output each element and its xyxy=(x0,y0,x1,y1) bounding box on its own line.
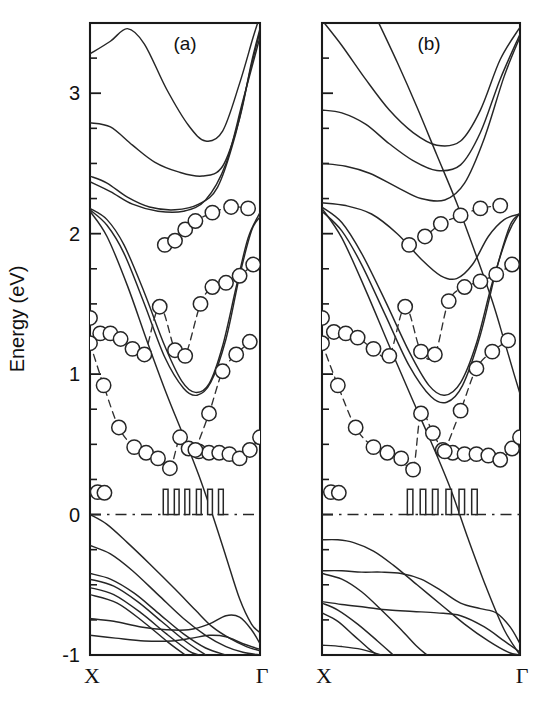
x-tick-label-X: X xyxy=(316,663,332,688)
y-tick-label: 2 xyxy=(69,223,80,245)
experimental-data-marker xyxy=(493,453,507,467)
experimental-data-marker xyxy=(112,420,126,434)
experimental-data-marker xyxy=(414,344,428,358)
experimental-data-marker xyxy=(224,200,238,214)
experimental-data-marker xyxy=(232,269,246,283)
experimental-data-marker xyxy=(97,486,111,500)
x-tick-label-gamma: Γ xyxy=(256,663,269,688)
panel-label-b: (b) xyxy=(417,33,440,54)
surface-state-marker xyxy=(446,489,452,514)
surface-state-marker xyxy=(459,489,465,514)
band-curve xyxy=(322,602,520,653)
surface-state-marker xyxy=(407,489,413,514)
experimental-data-marker xyxy=(188,443,202,457)
x-tick-label-X: X xyxy=(84,663,100,688)
experimental-data-marker xyxy=(380,446,394,460)
experimental-data-marker xyxy=(489,267,503,281)
panel-b-content xyxy=(315,20,527,655)
experimental-data-marker xyxy=(394,451,408,465)
x-tick-label-gamma: Γ xyxy=(516,663,529,688)
experimental-data-marker xyxy=(366,440,380,454)
experimental-data-marker xyxy=(453,208,467,222)
experimental-data-marker xyxy=(315,336,329,350)
experimental-data-marker xyxy=(485,344,499,358)
band-curve xyxy=(322,37,520,201)
experimental-data-marker xyxy=(428,347,442,361)
experimental-data-marker xyxy=(473,201,487,215)
y-tick-label: 0 xyxy=(69,504,80,526)
experimental-data-marker xyxy=(402,238,416,252)
panel-a-content xyxy=(83,16,267,655)
experimental-data-marker xyxy=(398,300,412,314)
experimental-data-marker xyxy=(350,330,364,344)
experimental-data-marker xyxy=(113,332,127,346)
band-curve xyxy=(90,31,260,209)
static-layer xyxy=(90,23,520,655)
experimental-data-marker xyxy=(438,444,452,458)
experimental-data-marker xyxy=(168,233,182,247)
experimental-data-marker xyxy=(163,461,177,475)
experimental-data-marker xyxy=(493,198,507,212)
experimental-data-marker xyxy=(229,347,243,361)
surface-state-marker xyxy=(472,489,478,514)
experimental-data-marker xyxy=(469,361,483,375)
y-tick-label: -1 xyxy=(62,644,80,666)
panel-b-layer xyxy=(315,20,527,655)
experimental-data-marker xyxy=(442,294,456,308)
experimental-data-marker xyxy=(315,311,329,325)
experimental-data-marker xyxy=(414,406,428,420)
experimental-data-marker xyxy=(453,403,467,417)
band-curve xyxy=(90,595,185,655)
band-curve xyxy=(322,574,427,655)
experimental-data-marker xyxy=(253,430,267,444)
experimental-data-marker xyxy=(331,378,345,392)
figure-root: 3210-1Energy (eV)XΓXΓ(a)(b) xyxy=(0,0,548,704)
experimental-data-marker xyxy=(513,430,527,444)
experimental-data-marker xyxy=(382,349,396,363)
experimental-data-marker xyxy=(219,276,233,290)
experimental-data-marker xyxy=(501,333,515,347)
experimental-data-marker xyxy=(83,311,97,325)
experimental-data-marker xyxy=(457,280,471,294)
experimental-data-marker xyxy=(83,336,97,350)
experimental-data-marker xyxy=(205,280,219,294)
band-curve xyxy=(90,37,260,212)
experimental-data-marker xyxy=(241,201,255,215)
experimental-data-marker xyxy=(366,342,380,356)
experimental-data-marker xyxy=(137,347,151,361)
band-curve xyxy=(90,574,226,655)
experimental-data-marker xyxy=(215,364,229,378)
experimental-data-marker xyxy=(473,274,487,288)
experimental-data-marker xyxy=(188,214,202,228)
experimental-dashed-line xyxy=(445,340,508,451)
surface-state-marker xyxy=(196,489,201,514)
band-curve xyxy=(90,579,206,655)
experimental-data-marker xyxy=(151,451,165,465)
surface-state-marker xyxy=(219,489,224,514)
panel-label-a: (a) xyxy=(173,33,196,54)
experimental-data-marker xyxy=(205,205,219,219)
band-structure-svg: 3210-1Energy (eV)XΓXΓ(a)(b) xyxy=(0,0,548,704)
surface-state-marker xyxy=(208,489,213,514)
experimental-data-marker xyxy=(153,300,167,314)
surface-state-marker xyxy=(432,489,438,514)
surface-state-marker xyxy=(174,489,179,514)
experimental-data-marker xyxy=(246,257,260,271)
y-tick-label: 1 xyxy=(69,363,80,385)
experimental-data-marker xyxy=(96,378,110,392)
experimental-data-marker xyxy=(348,420,362,434)
experimental-data-marker xyxy=(202,406,216,420)
experimental-data-marker xyxy=(243,443,257,457)
surface-state-marker xyxy=(420,489,426,514)
experimental-data-marker xyxy=(426,426,440,440)
band-curve xyxy=(322,34,520,171)
band-curve xyxy=(322,645,381,655)
experimental-data-marker xyxy=(434,217,448,231)
experimental-data-marker xyxy=(418,229,432,243)
text-layer: 3210-1Energy (eV)XΓXΓ(a)(b) xyxy=(6,33,529,688)
experimental-data-marker xyxy=(178,349,192,363)
experimental-data-marker xyxy=(332,486,346,500)
experimental-data-marker xyxy=(243,335,257,349)
experimental-data-marker xyxy=(505,257,519,271)
experimental-data-marker xyxy=(193,297,207,311)
